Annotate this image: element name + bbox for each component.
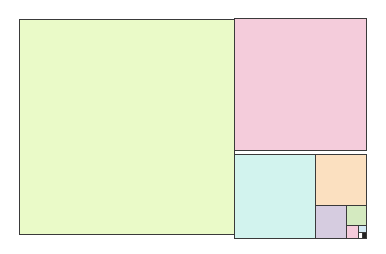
square-10 — [362, 232, 367, 239]
square-5 — [315, 205, 347, 239]
square-6 — [346, 205, 367, 226]
square-4 — [315, 154, 367, 206]
square-1 — [19, 19, 235, 235]
square-3 — [234, 154, 316, 239]
square-2 — [234, 18, 367, 151]
